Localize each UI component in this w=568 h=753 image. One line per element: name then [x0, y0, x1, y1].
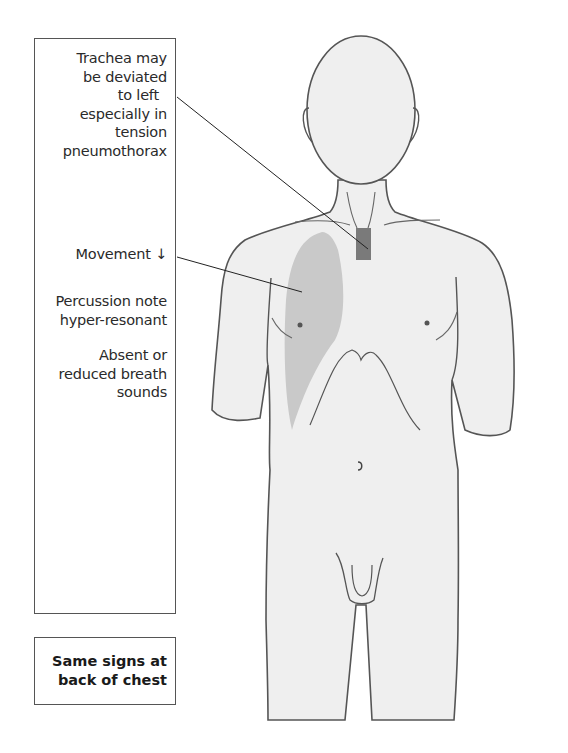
signs-label-box: Trachea may be deviated to left especial… — [34, 38, 176, 614]
back-of-chest-note: Same signs at back of chest — [52, 652, 167, 690]
head — [307, 36, 415, 184]
trachea-label: Trachea may be deviated to left especial… — [63, 49, 167, 160]
percussion-label: Percussion note hyper-resonant — [56, 292, 167, 329]
back-of-chest-note-box: Same signs at back of chest — [34, 637, 176, 705]
movement-label: Movement ↓ — [75, 245, 167, 264]
trachea-marker — [356, 228, 371, 260]
pneumothorax-signs-diagram: Trachea may be deviated to left especial… — [0, 0, 568, 753]
breath-sounds-label: Absent or reduced breath sounds — [59, 346, 167, 402]
torso-outline — [212, 180, 514, 720]
